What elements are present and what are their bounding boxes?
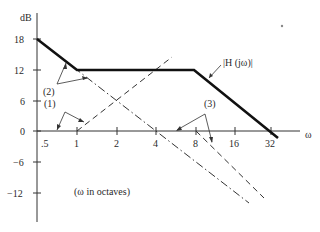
y-tick-label: −12 <box>7 188 23 199</box>
arrowhead-icon <box>209 137 213 143</box>
callout-1-label: (1) <box>44 98 56 110</box>
y-axis-label: dB <box>20 12 32 23</box>
y-tick-label: 6 <box>20 96 25 107</box>
arrowhead-icon <box>176 126 182 131</box>
x-tick-label: 32 <box>265 138 275 149</box>
y-tick-label: −6 <box>13 157 24 168</box>
x-tick-label: 1 <box>74 138 79 149</box>
y-tick-label: 0 <box>20 126 25 137</box>
x-tick-label: 16 <box>229 138 239 149</box>
octaves-note: (ω in octaves) <box>74 186 130 198</box>
x-axis-label: ω <box>305 129 312 140</box>
callout-2-label: (2) <box>43 86 55 98</box>
x-tick-label: 8 <box>193 138 198 149</box>
x-tick-label: 4 <box>153 138 158 149</box>
y-tick-label: 18 <box>14 34 24 45</box>
asymptote-1-line <box>77 57 172 131</box>
arrowhead-icon <box>63 63 67 69</box>
arrowhead-icon <box>82 76 88 80</box>
speck-mark <box>281 25 283 27</box>
bode-magnitude-chart: dB 18 12 6 0 −6 −12 .5 1 2 4 8 16 32 ω |… <box>0 0 320 232</box>
callout-3-label: (3) <box>204 98 216 110</box>
arrowhead-icon <box>78 118 84 122</box>
curve-label: |H (jω)| <box>223 57 253 69</box>
x-tick-label: .5 <box>41 138 49 149</box>
y-tick-label: 12 <box>14 65 24 76</box>
x-tick-label: 2 <box>114 138 119 149</box>
magnitude-curve <box>37 39 278 138</box>
